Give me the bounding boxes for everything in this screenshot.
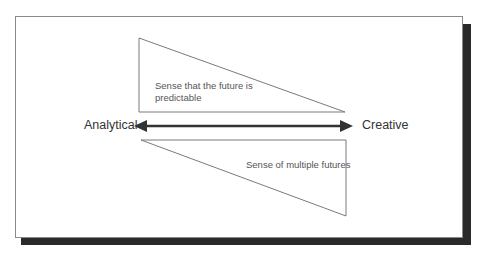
creative-label: Creative bbox=[362, 118, 409, 132]
lower-triangle-text: Sense of multiple futures bbox=[246, 159, 351, 171]
lower-triangle-multiple-futures bbox=[141, 140, 346, 216]
diagram-canvas: Analytical Creative Sense that the futur… bbox=[0, 0, 486, 256]
diagram-shapes bbox=[0, 0, 486, 256]
analytical-label: Analytical bbox=[84, 118, 138, 132]
upper-triangle-text-line1: Sense that the future is bbox=[155, 80, 253, 92]
upper-triangle-text-line2: predictable bbox=[155, 92, 201, 104]
arrow-head-right-icon bbox=[340, 120, 353, 132]
